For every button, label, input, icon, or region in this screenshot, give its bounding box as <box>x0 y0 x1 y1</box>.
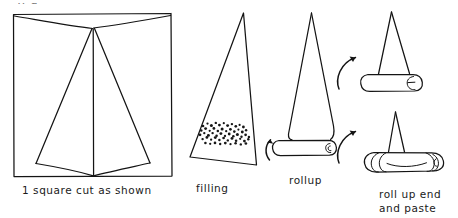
filling-speckles <box>199 122 251 146</box>
step-4-caption: roll up end and paste <box>379 188 457 215</box>
diagram-canvas: y g 1 square cut as shown <box>0 0 458 218</box>
triangle-with-filling-drawing <box>186 8 266 188</box>
triangle-right-edge <box>312 13 334 140</box>
lower-triangle-right-edge <box>396 112 405 152</box>
cut-line-bottom-left <box>36 164 93 176</box>
cylinder-both-ends-rolled-drawing <box>358 108 458 188</box>
cut-line-apex-to-left <box>36 29 92 164</box>
lower-triangle-left-edge <box>389 112 396 152</box>
roll-spiral-inner <box>328 146 331 151</box>
left-end-tuck-inner <box>379 153 386 172</box>
step-1-square-figure <box>0 0 190 190</box>
right-end-tuck-outer <box>426 153 434 172</box>
cut-line-top-left <box>15 16 93 29</box>
lower-cylinder <box>364 153 443 173</box>
cut-line-bottom-right <box>94 163 150 176</box>
square-drawing <box>0 0 190 190</box>
triangle-outline <box>190 13 257 165</box>
arrow-rollup-left <box>266 140 273 160</box>
cylinder-roll <box>273 140 337 155</box>
upper-triangle-left-edge <box>379 12 392 74</box>
step-2-caption: filling <box>196 182 229 195</box>
step-4-upper-figure <box>358 6 458 102</box>
upper-triangle-right-edge <box>392 12 410 74</box>
cylinder-one-end-rolled-drawing <box>358 6 458 102</box>
cut-line-apex-to-right <box>95 29 151 164</box>
cylinder-belly-seam <box>387 163 427 167</box>
cut-line-top-right <box>94 16 171 29</box>
left-end-tuck-outer <box>371 153 378 172</box>
upper-cylinder-end-circle <box>407 77 415 90</box>
triangle-left-edge <box>288 13 311 140</box>
step-4-lower-figure <box>358 108 458 188</box>
step-2-filling-figure <box>186 8 266 188</box>
step-3-caption: rollup <box>289 174 322 187</box>
step-1-caption: 1 square cut as shown <box>22 184 152 197</box>
